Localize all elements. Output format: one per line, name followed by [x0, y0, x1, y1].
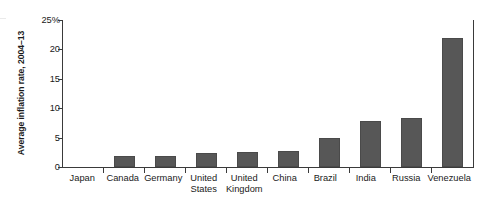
- bar[interactable]: [278, 151, 299, 167]
- x-axis-category-labels: JapanCanadaGermanyUnited StatesUnited Ki…: [62, 173, 472, 207]
- bar-slot: [145, 20, 186, 167]
- bar-slot: [227, 20, 268, 167]
- x-axis-label-united-states: United States: [184, 173, 225, 207]
- bar[interactable]: [196, 153, 217, 167]
- x-axis-label-germany: Germany: [143, 173, 184, 207]
- y-tick-mark: [58, 167, 63, 168]
- bar[interactable]: [360, 121, 381, 167]
- bar[interactable]: [401, 118, 422, 167]
- y-axis-title: Average inflation rate, 2004–13: [14, 8, 28, 178]
- bar[interactable]: [237, 152, 258, 167]
- x-axis-label-canada: Canada: [103, 173, 144, 207]
- y-axis-tick-labels: 25% 20 15 10 5 0: [28, 0, 60, 209]
- bar-slot: [432, 20, 473, 167]
- bar[interactable]: [114, 156, 135, 167]
- x-axis-label-russia: Russia: [386, 173, 427, 207]
- plot-area: [62, 20, 474, 168]
- scan-artifact: [0, 18, 6, 19]
- x-axis-label-china: China: [265, 173, 306, 207]
- bar-slot: [186, 20, 227, 167]
- bar-slot: [309, 20, 350, 167]
- bar-slot: [63, 20, 104, 167]
- bar[interactable]: [155, 156, 176, 167]
- x-axis-label-united-kingdom: United Kingdom: [224, 173, 265, 207]
- bar-chart-figure: Average inflation rate, 2004–13 25% 20 1…: [0, 0, 497, 209]
- bar-series: [63, 20, 473, 167]
- x-axis-label-india: India: [346, 173, 387, 207]
- x-axis-label-japan: Japan: [62, 173, 103, 207]
- x-axis-label-brazil: Brazil: [305, 173, 346, 207]
- bar-slot: [104, 20, 145, 167]
- bar-slot: [391, 20, 432, 167]
- bar-slot: [350, 20, 391, 167]
- bar-slot: [268, 20, 309, 167]
- bar[interactable]: [319, 138, 340, 167]
- bar[interactable]: [442, 38, 463, 167]
- x-axis-label-venezuela: Venezuela: [427, 173, 472, 207]
